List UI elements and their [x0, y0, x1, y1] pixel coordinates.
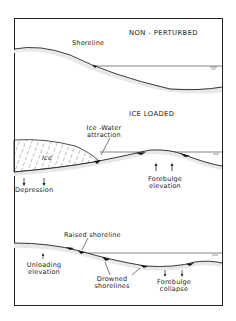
land-profile — [14, 47, 222, 89]
down-arrow-icon — [164, 270, 183, 277]
label-drowned-shorelines: Drowned shorelines — [90, 276, 134, 290]
drowned-leader-2 — [132, 268, 140, 275]
drowned-leader-1 — [105, 262, 110, 275]
label-shoreline: Shoreline — [72, 40, 104, 47]
label-line: attraction — [84, 132, 124, 139]
label-forebulge-collapse: Forebulge collapse — [154, 279, 194, 293]
water-level-icon — [210, 67, 217, 69]
label-ice: Ice — [42, 155, 52, 162]
land-shading — [14, 48, 222, 94]
up-arrow-icon — [155, 163, 174, 171]
label-line: shorelines — [90, 283, 134, 290]
label-depression: Depression — [15, 187, 53, 194]
raised-leader — [82, 238, 88, 250]
label-unloading-elevation: Unloading elevation — [24, 262, 64, 276]
ice-water-leader — [101, 138, 110, 155]
label-line: elevation — [145, 183, 185, 190]
label-ice-water-attraction: Ice -Water attraction — [84, 125, 124, 139]
label-raised-shoreline: Raised shoreline — [64, 232, 121, 239]
title-non-perturbed: NON - PERTURBED — [129, 30, 198, 37]
label-line: collapse — [154, 286, 194, 293]
panel-non-perturbed — [14, 47, 222, 93]
up-arrow-icon — [42, 253, 44, 259]
label-line: elevation — [24, 269, 64, 276]
title-ice-loaded: ICE LOADED — [129, 111, 174, 118]
down-arrow-icon — [23, 178, 46, 186]
panel-ice-loaded — [14, 138, 222, 186]
label-forebulge-elevation: Forebulge elevation — [145, 176, 185, 190]
